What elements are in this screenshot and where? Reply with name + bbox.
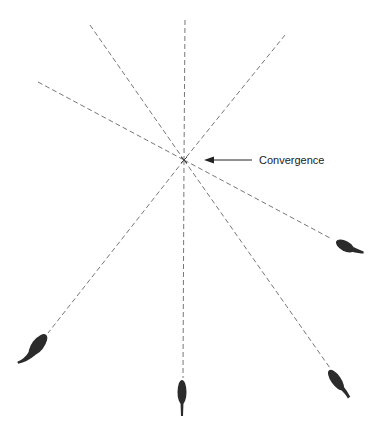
drop-bottom-icon	[178, 380, 187, 416]
ray-upper-left	[90, 25, 184, 160]
ray-bottom	[183, 160, 184, 378]
drop-lower-left-icon	[17, 331, 51, 370]
drop-lower-right-icon	[325, 367, 353, 401]
ray-top	[184, 20, 185, 160]
drop-right-icon	[334, 237, 365, 260]
ray-lower-left	[48, 160, 184, 333]
convergence-diagram: Convergence	[0, 0, 377, 435]
convergence-arrow	[204, 157, 252, 164]
ray-left	[38, 82, 184, 160]
ray-right	[184, 160, 330, 238]
ray-lower-right	[184, 160, 330, 368]
convergence-label: Convergence	[259, 154, 324, 166]
ray-upper-right	[184, 35, 285, 160]
